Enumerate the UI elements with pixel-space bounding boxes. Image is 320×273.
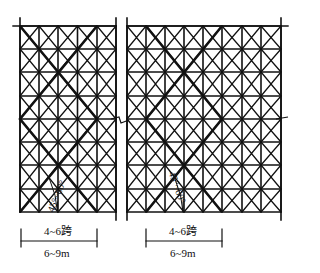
cell-brace (20, 142, 39, 154)
cell-brace (97, 72, 116, 84)
cell-brace (97, 142, 116, 154)
cell-brace (222, 142, 242, 154)
cell-brace (165, 26, 184, 38)
cell-brace (97, 201, 116, 213)
cell-brace (222, 96, 242, 108)
cell-brace (39, 26, 58, 38)
cell-brace (184, 26, 203, 38)
cell-brace (203, 61, 222, 73)
cell-brace (127, 49, 146, 61)
cell-brace (58, 108, 78, 120)
cell-brace (127, 72, 146, 84)
break-mark (276, 117, 288, 119)
cell-brace (97, 61, 116, 73)
cell-brace (242, 72, 261, 84)
cell-brace (203, 154, 222, 166)
cell-brace (261, 61, 281, 73)
cell-brace (146, 154, 165, 166)
cell-brace (242, 96, 261, 108)
cell-brace (127, 38, 146, 50)
cell-brace (184, 38, 203, 50)
cell-brace (39, 131, 58, 143)
cell-brace (58, 26, 78, 38)
cell-brace (127, 154, 146, 166)
cell-brace (242, 131, 261, 143)
cell-brace (165, 131, 184, 143)
cell-brace (127, 142, 146, 154)
cell-brace (222, 72, 242, 84)
cell-brace (222, 131, 242, 143)
cell-brace (127, 131, 146, 143)
cell-brace (78, 72, 98, 84)
cell-brace (261, 201, 281, 213)
cell-brace (20, 84, 39, 96)
cell-brace (184, 201, 203, 213)
cell-brace (78, 177, 98, 189)
cell-brace (203, 177, 222, 189)
cell-brace (165, 38, 184, 50)
cell-brace (242, 177, 261, 189)
cell-brace (58, 201, 78, 213)
cell-brace (78, 49, 98, 61)
cell-brace (146, 49, 165, 61)
cell-brace (58, 131, 78, 143)
cell-brace (222, 26, 242, 38)
cell-brace (242, 142, 261, 154)
cell-brace (242, 84, 261, 96)
cell-brace (184, 108, 203, 120)
cell-brace (127, 189, 146, 201)
cell-brace (203, 84, 222, 96)
cell-brace (242, 49, 261, 61)
cell-brace (146, 142, 165, 154)
cell-brace (97, 26, 116, 38)
cell-brace (261, 84, 281, 96)
cell-brace (184, 119, 203, 131)
cell-brace (97, 177, 116, 189)
cell-brace (127, 165, 146, 177)
cell-brace (242, 154, 261, 166)
cell-brace (127, 108, 146, 120)
left-length-label: 6~9m (44, 248, 70, 259)
cell-brace (242, 108, 261, 120)
cell-brace (222, 154, 242, 166)
cell-brace (146, 61, 165, 73)
cell-brace (20, 49, 39, 61)
cell-brace (127, 61, 146, 73)
cell-brace (222, 38, 242, 50)
cell-brace (242, 201, 261, 213)
cell-brace (222, 84, 242, 96)
cell-brace (127, 119, 146, 131)
cell-brace (203, 49, 222, 61)
cell-brace (78, 142, 98, 154)
cell-brace (97, 49, 116, 61)
cell-brace (97, 38, 116, 50)
cell-brace (203, 142, 222, 154)
cell-brace (222, 189, 242, 201)
cell-brace (127, 201, 146, 213)
cell-brace (78, 165, 98, 177)
cell-brace (165, 96, 184, 108)
cell-brace (20, 61, 39, 73)
cell-brace (261, 108, 281, 120)
cell-brace (97, 108, 116, 120)
cell-brace (146, 72, 165, 84)
cell-brace (242, 189, 261, 201)
cell-brace (222, 108, 242, 120)
cell-brace (97, 119, 116, 131)
cell-brace (97, 84, 116, 96)
cell-brace (222, 201, 242, 213)
cell-brace (78, 84, 98, 96)
cell-brace (97, 96, 116, 108)
cell-brace (97, 154, 116, 166)
cell-brace (20, 72, 39, 84)
cell-brace (242, 61, 261, 73)
cell-brace (203, 72, 222, 84)
cell-brace (261, 177, 281, 189)
cell-brace (242, 119, 261, 131)
cell-brace (184, 96, 203, 108)
cell-brace (242, 38, 261, 50)
cell-brace (261, 96, 281, 108)
cell-brace (127, 84, 146, 96)
cell-brace (97, 189, 116, 201)
left-span-label: 4~6跨 (44, 226, 72, 237)
